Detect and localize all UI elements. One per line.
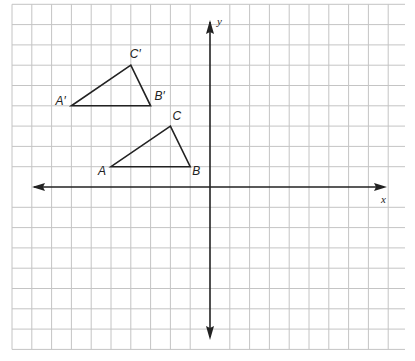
axes: x y bbox=[32, 15, 387, 340]
vertex-label: B′ bbox=[155, 89, 166, 103]
y-axis-label: y bbox=[216, 15, 222, 27]
vertex-label: A′ bbox=[54, 94, 66, 108]
coordinate-plane: x y ABCA′B′C′ bbox=[0, 0, 415, 361]
grid bbox=[12, 4, 405, 349]
vertex-label: C′ bbox=[130, 47, 142, 61]
y-axis-arrow-up-icon bbox=[206, 20, 214, 34]
x-axis-label: x bbox=[380, 193, 386, 205]
vertex-label: C bbox=[172, 109, 181, 123]
figures: ABCA′B′C′ bbox=[54, 47, 200, 178]
triangle-ABC: ABC bbox=[97, 109, 200, 178]
y-axis-arrow-down-icon bbox=[206, 326, 214, 340]
vertex-label: A bbox=[97, 164, 106, 178]
vertex-label: B bbox=[192, 164, 200, 178]
